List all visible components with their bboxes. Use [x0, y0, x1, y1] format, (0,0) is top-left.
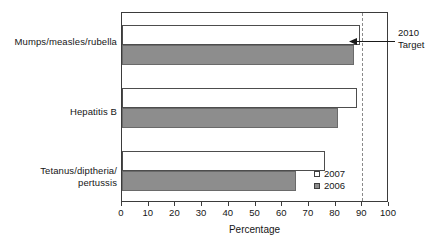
category-label-mumps-measles-rubella: Mumps/measles/rubella — [4, 36, 117, 48]
x-axis-tick-100 — [388, 202, 389, 206]
x-axis-tick-70 — [308, 202, 309, 206]
legend: 2007 2006 — [314, 168, 345, 192]
legend-label-2006: 2006 — [324, 180, 345, 192]
target-annotation-arrow-icon — [349, 37, 396, 46]
legend-swatch-2006-icon — [314, 183, 320, 189]
bar-2006-hepatitis-b — [122, 108, 338, 128]
x-axis-tick-label-90: 90 — [356, 207, 367, 218]
bar-2006-tetanus-diptheria-pertussis — [122, 171, 296, 191]
x-axis-tick-80 — [335, 202, 336, 206]
x-axis-tick-0 — [121, 202, 122, 206]
category-label-hepatitis-b: Hepatitis B — [4, 106, 117, 118]
legend-item-2006: 2006 — [314, 180, 345, 192]
x-axis-tick-label-10: 10 — [142, 207, 153, 218]
x-axis-tick-label-40: 40 — [223, 207, 234, 218]
x-axis-tick-label-50: 50 — [249, 207, 260, 218]
bar-2007-hepatitis-b — [122, 88, 357, 108]
bar-chart-figure: Mumps/measles/rubella Hepatitis B Tetanu… — [0, 0, 442, 248]
x-axis-tick-40 — [228, 202, 229, 206]
x-axis-tick-label-80: 80 — [329, 207, 340, 218]
legend-swatch-2007-icon — [314, 171, 320, 177]
x-axis-tick-50 — [255, 202, 256, 206]
x-axis-tick-20 — [174, 202, 175, 206]
plot-area — [121, 12, 388, 202]
x-axis-tick-label-70: 70 — [303, 207, 314, 218]
x-axis-tick-10 — [148, 202, 149, 206]
x-axis-tick-label-0: 0 — [118, 207, 123, 218]
target-annotation-label: 2010 Target — [398, 27, 424, 50]
x-axis-tick-label-60: 60 — [276, 207, 287, 218]
legend-item-2007: 2007 — [314, 168, 345, 180]
legend-label-2007: 2007 — [324, 168, 345, 180]
x-axis-tick-label-20: 20 — [169, 207, 180, 218]
x-axis-tick-90 — [361, 202, 362, 206]
category-label-tetanus-diptheria-pertussis: Tetanus/diptheria/ pertussis — [4, 165, 117, 188]
x-axis-tick-label-30: 30 — [196, 207, 207, 218]
x-axis-title: Percentage — [121, 224, 388, 235]
x-axis-tick-60 — [281, 202, 282, 206]
bar-2007-mumps-measles-rubella — [122, 25, 360, 45]
bar-2006-mumps-measles-rubella — [122, 45, 354, 65]
x-axis-tick-label-100: 100 — [380, 207, 396, 218]
bar-2007-tetanus-diptheria-pertussis — [122, 151, 325, 171]
x-axis-tick-30 — [201, 202, 202, 206]
